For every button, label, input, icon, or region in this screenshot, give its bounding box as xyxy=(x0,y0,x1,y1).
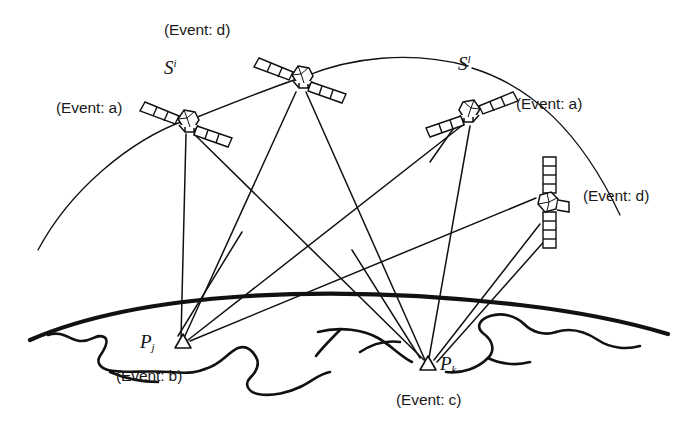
satellite-left-symbol: Si xyxy=(164,58,177,77)
station-j-symbol: Pj xyxy=(140,332,155,353)
satellite-right-symbol-base: S xyxy=(458,53,468,74)
event-label-a-right: (Event: a) xyxy=(516,96,582,112)
satellite-left-symbol-superscript: i xyxy=(174,57,177,69)
event-label-a-left: (Event: a) xyxy=(56,100,122,116)
satellite-right-symbol-superscript: l xyxy=(468,53,471,65)
satellite-left-symbol-base: S xyxy=(164,57,174,78)
event-label-b: (Event: b) xyxy=(116,368,182,384)
satellite-top-icon xyxy=(254,58,346,103)
station-j-symbol-subscript: j xyxy=(152,341,155,353)
figure-canvas: (Event: d) Si (Event: a) Sl (Event: a) (… xyxy=(0,0,692,430)
station-k-symbol-subscript: k xyxy=(452,363,457,375)
orbit-arc-right xyxy=(306,57,620,215)
satellite-right-icon xyxy=(426,92,518,137)
station-k-symbol: Pk xyxy=(440,354,457,375)
station-j-symbol-base: P xyxy=(140,331,152,352)
diagram-svg xyxy=(0,0,692,430)
signal-links xyxy=(178,92,556,362)
earth-limb xyxy=(30,294,668,340)
event-label-d-right: (Event: d) xyxy=(583,188,649,204)
event-label-d-top: (Event: d) xyxy=(164,22,230,38)
station-k-symbol-base: P xyxy=(440,353,452,374)
satellite-lower-right-icon xyxy=(538,157,569,248)
event-label-c: (Event: c) xyxy=(396,392,461,408)
satellite-right-symbol: Sl xyxy=(458,54,471,73)
